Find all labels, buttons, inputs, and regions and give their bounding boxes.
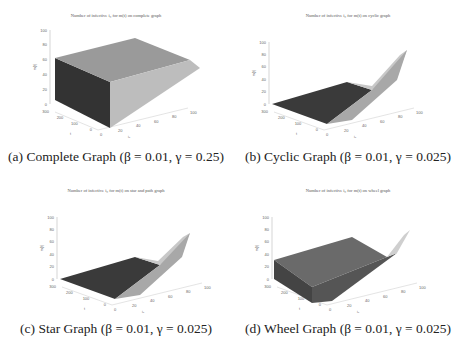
t-tick-label: 200 [278,115,285,120]
z-tick-label: 20 [43,87,48,92]
z-tick-label: 80 [262,52,267,57]
t-tick-label: 300 [42,109,49,114]
i0-axis-label: i₀ [354,135,357,139]
i0-tick-label: 20 [118,128,123,133]
z-axis-label: m(t) [255,245,259,251]
i0-tick-label: 40 [365,298,370,303]
z-tick-label: 20 [50,264,55,269]
z-tick-label: 80 [50,227,55,232]
figure-caption: (a) Complete Graph (β = 0.01, γ = 0.25) [0,149,232,165]
chart-panel-c: Number of infective i₀ for m(t) on star … [0,175,232,350]
z-tick-label: 40 [43,72,48,77]
t-tick-label: 100 [71,121,78,126]
z-tick-label: 20 [262,89,267,94]
t-axis-label: t [299,307,300,311]
t-tick-label: 200 [281,290,288,295]
z-tick-label: 0 [264,102,267,107]
t-tick-label: 100 [295,121,302,126]
i0-axis-label: i₀ [142,310,145,314]
i0-tick-label: 100 [204,285,211,290]
z-tick-label: 60 [50,239,55,244]
z-axis-label: m(t) [40,245,44,251]
z-tick-label: 40 [262,77,267,82]
z-tick-label: 80 [43,42,48,47]
i0-tick-label: 80 [398,114,403,119]
z-tick-label: 60 [262,64,267,69]
z-tick-label: 80 [265,227,270,232]
z-tick-label: 100 [47,215,54,220]
i0-tick-label: 20 [132,303,137,308]
i0-tick-label: 60 [380,119,385,124]
i0-tick-label: 40 [150,298,155,303]
z-tick-label: 0 [267,277,270,282]
figure-caption: (b) Cyclic Graph (β = 0.01, γ = 0.025) [232,149,464,165]
z-tick-label: 20 [265,264,270,269]
i0-tick-label: 0 [326,132,329,137]
t-tick-label: 200 [66,290,73,295]
surface-patch [387,230,410,257]
surface-plot: 020406080100m(t)3002001000t020406080100i… [232,175,464,315]
t-axis-label: t [296,132,297,136]
i0-tick-label: 80 [172,114,177,119]
z-tick-label: 0 [52,277,55,282]
i0-tick-label: 60 [154,119,159,124]
surface-plot: 020406080100m(t)3002001000t020406080100i… [232,0,464,140]
z-axis-label: m(t) [252,70,256,76]
t-tick-label: 300 [49,284,56,289]
i0-tick-label: 0 [329,307,332,312]
z-tick-label: 60 [265,239,270,244]
i0-axis-label: i₀ [128,135,131,139]
figure-caption: (d) Wheel Graph (β = 0.01, γ = 0.025) [232,321,464,337]
t-tick-label: 300 [264,284,271,289]
t-axis-label: t [84,307,85,311]
t-tick-label: 200 [57,115,64,120]
i0-tick-label: 60 [168,294,173,299]
i0-tick-label: 80 [401,289,406,294]
figure-caption: (c) Star Graph (β = 0.01, γ = 0.025) [0,321,232,337]
i0-axis-label: i₀ [357,310,360,314]
z-axis-label: m(t) [33,64,37,70]
i0-tick-label: 40 [362,123,367,128]
i0-tick-label: 20 [344,128,349,133]
surface-plot: 020406080100m(t)3002001000t020406080100i… [0,175,232,315]
t-tick-label: 100 [298,296,305,301]
i0-tick-label: 100 [190,110,197,115]
z-tick-label: 40 [265,252,270,257]
chart-panel-a: Number of infective i₀ for m(t) on compl… [0,0,232,175]
z-tick-label: 60 [43,57,48,62]
i0-tick-label: 0 [114,307,117,312]
i0-tick-label: 0 [100,132,103,137]
i0-tick-label: 20 [347,303,352,308]
i0-tick-label: 40 [136,123,141,128]
i0-tick-label: 60 [383,294,388,299]
chart-panel-d: Number of infective i₀ for m(t) on wheel… [232,175,464,350]
i0-tick-label: 80 [186,289,191,294]
t-axis-label: t [70,132,71,136]
z-tick-label: 100 [40,28,47,33]
t-tick-label: 300 [261,109,268,114]
z-tick-label: 100 [259,40,266,45]
t-tick-label: 100 [83,296,90,301]
surface-plot: 020406080100m(t)3002001000t020406080100i… [0,0,232,140]
z-tick-label: 0 [45,102,48,107]
z-tick-label: 40 [50,252,55,257]
chart-panel-b: Number of infective i₀ for m(t) on cycli… [232,0,464,175]
z-tick-label: 100 [262,215,269,220]
i0-tick-label: 100 [416,110,423,115]
i0-tick-label: 100 [419,285,426,290]
